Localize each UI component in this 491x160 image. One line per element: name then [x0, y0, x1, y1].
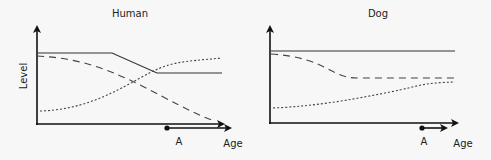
level-axis-label: Level — [18, 63, 29, 89]
solid-line — [37, 53, 222, 73]
age-axis-label: Age — [453, 138, 472, 149]
marker-a-label: A — [176, 136, 183, 147]
dog-title: Dog — [368, 8, 388, 19]
dotted-line — [273, 82, 455, 108]
age-axis-label: Age — [223, 138, 242, 149]
human-title: Human — [112, 8, 148, 19]
dotted-line — [40, 58, 222, 111]
dashed-line — [271, 54, 455, 78]
human-panel: Human Level A Age — [18, 8, 243, 149]
diagram-canvas: Human Level A Age Dog A Age — [0, 0, 491, 160]
dog-panel: Dog A Age — [269, 8, 473, 149]
marker-a-label: A — [421, 136, 428, 147]
dashed-line — [37, 56, 212, 120]
